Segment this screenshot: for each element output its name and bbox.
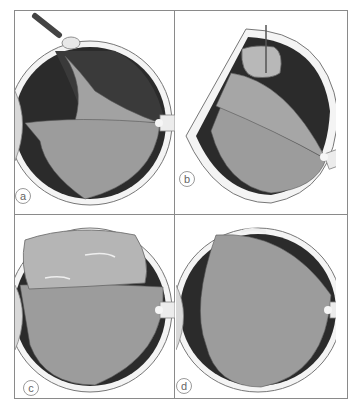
panel-label-d: d — [176, 378, 192, 394]
eye-cross-section-illustration — [15, 215, 175, 399]
panel-a: a — [15, 11, 175, 215]
panel-label-a: a — [15, 188, 31, 204]
panel-b: b — [176, 11, 336, 215]
eye-cross-section-illustration — [176, 215, 336, 399]
panel-label-c: c — [23, 380, 39, 396]
panel-label-b: b — [179, 171, 195, 187]
eye-cross-section-illustration — [15, 11, 175, 215]
panel-c: c — [15, 215, 175, 408]
panel-d: d — [176, 215, 336, 408]
eye-cross-section-illustration — [176, 11, 336, 215]
